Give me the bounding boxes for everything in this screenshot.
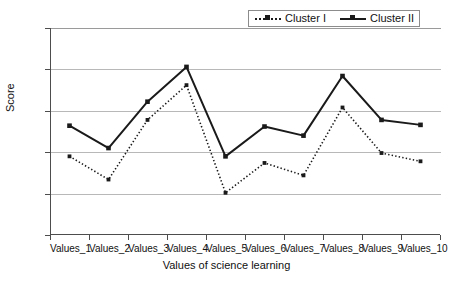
x-tick-label: Values_2 — [89, 243, 128, 254]
y-tick-mark — [45, 152, 50, 153]
legend-item-cluster-i: Cluster I — [249, 11, 335, 26]
legend-item-cluster-ii: Cluster II — [335, 11, 419, 26]
legend-label-cluster-i: Cluster I — [285, 13, 326, 24]
y-tick-mark — [45, 69, 50, 70]
x-tick-mark — [245, 235, 246, 240]
x-tick-label: Values_10 — [401, 243, 440, 254]
plot-area — [50, 28, 440, 235]
y-tick-mark — [45, 194, 50, 195]
x-tick-label: Values_4 — [167, 243, 206, 254]
x-tick-mark — [167, 235, 168, 240]
x-tick-label: Values_1 — [50, 243, 89, 254]
x-tick-label: Values_5 — [206, 243, 245, 254]
x-tick-mark — [206, 235, 207, 240]
legend-dotted-line-icon — [255, 13, 281, 24]
gridline — [51, 28, 441, 29]
x-tick-mark — [50, 235, 51, 240]
gridline — [51, 194, 441, 195]
x-tick-mark — [284, 235, 285, 240]
x-tick-label: Values_8 — [323, 243, 362, 254]
x-tick-mark — [440, 235, 441, 240]
gridline — [51, 69, 441, 70]
x-tick-label: Values_9 — [362, 243, 401, 254]
x-tick-mark — [89, 235, 90, 240]
y-axis-title: Score — [4, 83, 16, 112]
legend-solid-line-icon — [340, 13, 366, 24]
x-tick-label: Values_6 — [245, 243, 284, 254]
x-tick-label: Values_7 — [284, 243, 323, 254]
x-tick-mark — [362, 235, 363, 240]
line-chart: Cluster I Cluster II 11.522.533.5 Score … — [0, 0, 453, 281]
y-tick-mark — [45, 111, 50, 112]
chart-legend: Cluster I Cluster II — [248, 10, 420, 27]
x-tick-mark — [323, 235, 324, 240]
x-tick-label: Values_3 — [128, 243, 167, 254]
x-axis-title: Values of science learning — [0, 259, 453, 271]
x-tick-mark — [401, 235, 402, 240]
x-tick-mark — [128, 235, 129, 240]
y-tick-mark — [45, 28, 50, 29]
gridline — [51, 111, 441, 112]
legend-label-cluster-ii: Cluster II — [370, 13, 414, 24]
gridline — [51, 152, 441, 153]
